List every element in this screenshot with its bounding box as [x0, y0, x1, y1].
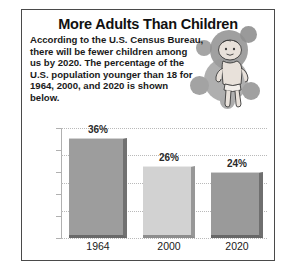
body-line: U.S. population younger than 18 for — [30, 69, 268, 81]
body-line: us by 2020. The percentage of the — [30, 57, 268, 69]
plot-area: 36% 26% 24% — [61, 128, 267, 238]
bar-2020 — [211, 172, 263, 238]
infographic-panel: More Adults Than Children According to t… — [21, 9, 275, 261]
body-line: below. — [30, 92, 268, 104]
bar-value-label: 26% — [143, 152, 195, 163]
bar-chart: 36% 26% 24% 1964 2000 2020 — [41, 128, 269, 253]
x-axis-label-2000: 2000 — [143, 240, 195, 252]
gridline — [61, 238, 267, 239]
body-line: According to the U.S. Census Bureau, — [30, 34, 268, 46]
bar-value-label: 24% — [211, 158, 263, 169]
bar-1964 — [69, 138, 127, 238]
body-text: According to the U.S. Census Bureau, the… — [30, 34, 268, 104]
bar-2000 — [143, 166, 195, 238]
x-axis-labels: 1964 2000 2020 — [61, 240, 267, 254]
x-axis-label-1964: 1964 — [69, 240, 127, 252]
body-line: 1964, 2000, and 2020 is shown — [30, 80, 268, 92]
bar-group: 24% — [211, 172, 263, 238]
bar-value-label: 36% — [69, 124, 127, 135]
bar-group: 36% — [69, 138, 127, 238]
bar-group: 26% — [143, 166, 195, 238]
body-line: there will be fewer children among — [30, 46, 268, 58]
x-axis-label-2020: 2020 — [211, 240, 263, 252]
